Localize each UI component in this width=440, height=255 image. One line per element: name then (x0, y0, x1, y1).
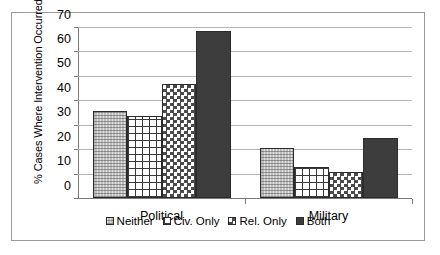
y-axis-tick (74, 125, 78, 126)
gridline (78, 51, 412, 52)
bar-military-both[interactable] (363, 138, 398, 198)
y-axis-tick (74, 27, 78, 28)
legend-swatch-icon (296, 217, 304, 225)
y-axis-tick (74, 174, 78, 175)
legend-item-civ-only[interactable]: Civ. Only (163, 215, 220, 227)
plot-area: 010203040506070 PoliticalMilitary (78, 27, 412, 199)
y-axis-tick-label: 50 (57, 56, 71, 70)
y-axis-tick (74, 76, 78, 77)
bar-military-rel-only[interactable] (329, 172, 364, 198)
chart-frame: % Cases Where Intervention Occurred 0102… (11, 12, 425, 241)
legend-item-both[interactable]: Both (296, 215, 331, 227)
legend-swatch-icon (228, 217, 236, 225)
y-axis-tick-label: 60 (57, 32, 71, 46)
y-axis-tick-label: 30 (57, 105, 71, 119)
legend-label: Civ. Only (174, 215, 220, 227)
y-axis-tick-label: 40 (57, 81, 71, 95)
gridline (78, 27, 412, 28)
legend-label: Rel. Only (239, 215, 286, 227)
y-axis-tick-label: 10 (57, 154, 71, 168)
gridline (78, 76, 412, 77)
legend-label: Neither (117, 215, 154, 227)
legend-swatch-icon (163, 217, 171, 225)
bar-military-civ-only[interactable] (294, 167, 329, 198)
legend-swatch-icon (106, 217, 114, 225)
bar-military-neither[interactable] (260, 148, 295, 198)
bar-political-neither[interactable] (93, 111, 128, 198)
chart-legend: NeitherCiv. OnlyRel. OnlyBoth (12, 215, 424, 227)
y-axis-tick (74, 100, 78, 101)
bar-political-both[interactable] (196, 31, 231, 198)
bar-political-civ-only[interactable] (127, 116, 162, 198)
y-axis-title: % Cases Where Intervention Occurred (32, 14, 44, 184)
legend-item-rel-only[interactable]: Rel. Only (228, 215, 286, 227)
y-axis-tick-label: 70 (57, 8, 71, 22)
legend-label: Both (307, 215, 331, 227)
y-axis-tick (74, 51, 78, 52)
x-axis-category-tick (245, 199, 246, 204)
gridline (78, 100, 412, 101)
y-axis-tick-label: 20 (57, 130, 71, 144)
y-axis-tick (74, 198, 78, 199)
bar-political-rel-only[interactable] (162, 84, 197, 198)
y-axis-tick (74, 149, 78, 150)
legend-item-neither[interactable]: Neither (106, 215, 154, 227)
x-axis-category-tick (412, 199, 413, 204)
y-axis-tick-label: 0 (64, 179, 71, 193)
